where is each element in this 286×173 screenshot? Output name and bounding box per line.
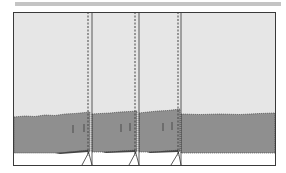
fold-diagram bbox=[0, 0, 286, 173]
lower-band-panel-1 bbox=[14, 112, 90, 153]
base-strip bbox=[13, 152, 276, 166]
lower-band-panel-3 bbox=[139, 109, 180, 152]
lower-band-panel-4 bbox=[181, 113, 275, 153]
lower-band-panel-2 bbox=[92, 111, 137, 152]
